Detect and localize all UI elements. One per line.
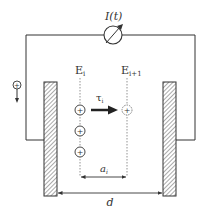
svg-text:+: + <box>77 127 84 136</box>
drift-time-label: τi <box>96 92 104 104</box>
diagram-canvas: I(t) + Ei Ei+1 + + + + <box>0 0 211 213</box>
right-electrode <box>163 82 176 196</box>
circuit-diagram: I(t) + Ei Ei+1 + + + + <box>0 0 211 213</box>
arrow-right-icon <box>91 106 118 115</box>
svg-text:+: + <box>77 148 84 157</box>
electrode-gap-label: d <box>106 196 113 209</box>
svg-text:+: + <box>77 106 84 115</box>
ion-2: + <box>75 126 85 136</box>
current-label: I(t) <box>104 10 122 23</box>
ammeter-icon <box>104 24 123 44</box>
svg-text:+: + <box>124 106 131 115</box>
field-lines <box>80 78 127 176</box>
ion-displaced: + <box>122 105 132 115</box>
left-electrode <box>44 82 57 196</box>
field-right-label: Ei+1 <box>121 64 142 78</box>
positive-charge-icon: + <box>13 81 21 103</box>
svg-text:+: + <box>14 82 20 90</box>
ion-1: + <box>75 105 85 115</box>
field-left-label: Ei <box>75 64 86 78</box>
ion-spacing-label: ai <box>100 163 108 175</box>
ion-3: + <box>75 147 85 157</box>
